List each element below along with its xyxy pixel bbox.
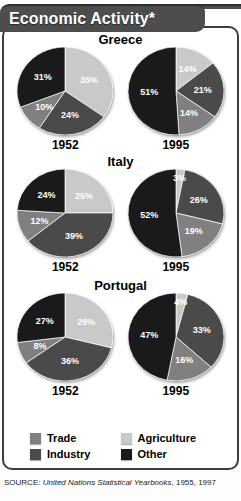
pie-svg: 35%24%10%31% (17, 47, 113, 135)
country-block-greece: Greece 35%24%10%31% 1952 14%21%14%51% 19… (4, 30, 237, 152)
pie-slice-label: 26% (189, 195, 207, 205)
pie-slice-label: 33% (193, 325, 211, 335)
pie-year-label: 1995 (162, 138, 189, 152)
source-prefix: SOURCE: (4, 478, 43, 487)
pie-year-label: 1952 (52, 138, 79, 152)
pie-slice-label: 14% (180, 108, 198, 118)
country-heading: Greece (4, 30, 237, 47)
pie-svg: 3%26%19%52% (128, 169, 224, 257)
pie-slice-label: 47% (140, 330, 158, 340)
pie-cell-portugal-1952: 29%36%8%27% 1952 (13, 293, 117, 398)
pie-year-label: 1952 (52, 384, 79, 398)
pie-chart-portugal-1952: 29%36%8%27% (17, 293, 113, 381)
pie-svg: 29%36%8%27% (17, 293, 113, 381)
legend-swatch-agriculture (121, 433, 132, 444)
legend-swatch-other (121, 449, 132, 460)
legend-item-other: Other (121, 448, 212, 460)
legend-label-agriculture: Agriculture (138, 432, 197, 444)
pie-chart-italy-1952: 25%39%12%24% (17, 169, 113, 257)
pie-row-portugal: 29%36%8%27% 1952 4%33%16%47% 1995 (4, 293, 237, 398)
pie-cell-greece-1995: 14%21%14%51% 1995 (124, 47, 228, 152)
legend-swatch-trade (30, 433, 41, 444)
source-publication: United Nations Statistical Yearbooks (43, 478, 172, 487)
pie-slice-label: 16% (175, 355, 193, 365)
legend-label-trade: Trade (47, 432, 76, 444)
pie-slice-label: 21% (194, 85, 212, 95)
country-heading: Italy (4, 152, 237, 169)
country-heading: Portugal (4, 276, 237, 293)
economic-activity-figure: Economic Activity* Greece 35%24%10%31% 1… (0, 0, 241, 501)
legend-item-trade: Trade (30, 432, 121, 444)
pie-cell-italy-1952: 25%39%12%24% 1952 (13, 169, 117, 274)
legend-label-industry: Industry (47, 448, 90, 460)
pie-slice-label: 3% (173, 173, 186, 183)
pie-svg: 14%21%14%51% (128, 47, 224, 135)
chart-panel: Greece 35%24%10%31% 1952 14%21%14%51% 19… (2, 26, 239, 470)
pie-slice-label: 35% (80, 75, 98, 85)
pie-cell-greece-1952: 35%24%10%31% 1952 (13, 47, 117, 152)
legend-swatch-industry (30, 449, 41, 460)
pie-slice-label: 8% (34, 341, 47, 351)
pie-slice-label: 24% (61, 110, 79, 120)
legend-label-other: Other (138, 448, 167, 460)
pie-cell-portugal-1995: 4%33%16%47% 1995 (124, 293, 228, 398)
legend-item-agriculture: Agriculture (121, 432, 212, 444)
pie-slice-label: 52% (140, 210, 158, 220)
pie-chart-greece-1952: 35%24%10%31% (17, 47, 113, 135)
source-suffix: , 1955, 1997 (171, 478, 215, 487)
pie-slice-label: 36% (61, 356, 79, 366)
legend-row-1: Trade Agriculture (30, 432, 211, 444)
source-note: SOURCE: United Nations Statistical Yearb… (4, 478, 239, 488)
legend-row-2: Industry Other (30, 448, 211, 460)
pie-slice-label: 24% (38, 190, 56, 200)
pie-slice-label: 10% (36, 102, 54, 112)
pie-slice-label: 25% (75, 191, 93, 201)
country-block-italy: Italy 25%39%12%24% 1952 3%26%19%52% 1995 (4, 152, 237, 274)
page-title: Economic Activity* (0, 10, 155, 28)
pie-chart-portugal-1995: 4%33%16%47% (128, 293, 224, 381)
pie-slice-label: 14% (178, 64, 196, 74)
pie-slice-label: 31% (34, 72, 52, 82)
pie-slice-label: 51% (140, 87, 158, 97)
pie-chart-italy-1995: 3%26%19%52% (128, 169, 224, 257)
pie-slice-label: 29% (77, 317, 95, 327)
pie-svg: 25%39%12%24% (17, 169, 113, 257)
pie-slice-label: 19% (185, 226, 203, 236)
pie-row-italy: 25%39%12%24% 1952 3%26%19%52% 1995 (4, 169, 237, 274)
pie-year-label: 1995 (162, 260, 189, 274)
pie-row-greece: 35%24%10%31% 1952 14%21%14%51% 1995 (4, 47, 237, 152)
title-tab: Economic Activity* (0, 4, 205, 32)
pie-slice-label: 12% (31, 216, 49, 226)
legend: Trade Agriculture Industry Other (4, 432, 237, 464)
pie-chart-greece-1995: 14%21%14%51% (128, 47, 224, 135)
legend-item-industry: Industry (30, 448, 121, 460)
pie-cell-italy-1995: 3%26%19%52% 1995 (124, 169, 228, 274)
pie-svg: 4%33%16%47% (128, 293, 224, 381)
pie-year-label: 1952 (52, 260, 79, 274)
country-block-portugal: Portugal 29%36%8%27% 1952 4%33%16%47% 19… (4, 276, 237, 398)
pie-year-label: 1995 (162, 384, 189, 398)
pie-slice-label: 39% (65, 231, 83, 241)
pie-slice-label: 27% (36, 316, 54, 326)
pie-slice-label: 4% (174, 297, 187, 307)
